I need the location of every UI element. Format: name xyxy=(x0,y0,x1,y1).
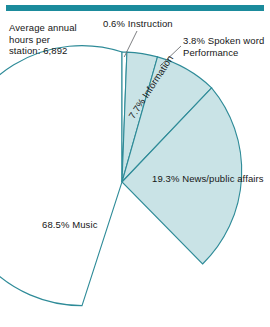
figure-canvas: Average annual hours per station: 6,892 … xyxy=(0,0,270,327)
pie-slice-music[interactable] xyxy=(0,46,122,306)
pie-label-music: 68.5% Music xyxy=(42,219,97,231)
pie-label-spoken-word: 3.8% Spoken word Performance xyxy=(183,35,269,58)
annotation-average-annual-hours: Average annual hours per station: 6,892 xyxy=(9,22,105,57)
pie-label-news-public-affairs: 19.3% News/public affairs xyxy=(152,173,264,185)
pie-label-instruction: 0.6% Instruction xyxy=(103,18,195,30)
